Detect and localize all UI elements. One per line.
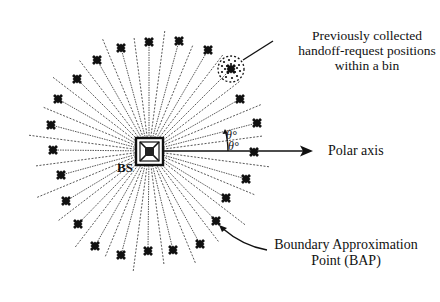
bap-marker-icon bbox=[46, 120, 55, 129]
bap-marker-icon bbox=[168, 245, 177, 254]
bap-marker-icon bbox=[116, 250, 125, 259]
bin-callout-line-2: handoff-request positions bbox=[292, 43, 440, 58]
bap-marker-icon bbox=[61, 196, 70, 205]
bap-callout: Boundary Approximation Point (BAP) bbox=[271, 237, 421, 269]
bap-radial-line bbox=[149, 123, 257, 151]
bap-marker-icon bbox=[56, 170, 65, 179]
bap-marker-icon bbox=[174, 36, 183, 45]
bin-callout-line-3: within a bin bbox=[292, 58, 440, 73]
bap-marker-icon bbox=[90, 241, 99, 250]
bap-marker-icon bbox=[48, 145, 57, 154]
bap-marker-icon bbox=[226, 64, 235, 73]
bap-radial-line bbox=[121, 48, 149, 151]
bap-marker-icon bbox=[143, 246, 152, 255]
base-station-icon bbox=[136, 138, 163, 165]
bap-marker-icon bbox=[221, 193, 230, 202]
bap-marker-icon bbox=[235, 94, 244, 103]
bap-marker-icon bbox=[241, 174, 250, 183]
bin-boundary-line bbox=[52, 77, 149, 151]
bap-marker-icon bbox=[73, 219, 82, 228]
bap-callout-line-1: Boundary Approximation bbox=[271, 237, 421, 253]
theta-lower-label: θ° bbox=[228, 139, 239, 154]
bap-radial-line bbox=[53, 150, 149, 151]
bap-callout-arrow bbox=[219, 225, 267, 250]
bap-radial-line bbox=[149, 41, 179, 151]
bap-marker-icon bbox=[72, 74, 81, 83]
bap-marker-icon bbox=[203, 45, 212, 54]
bap-marker-icon bbox=[252, 118, 261, 127]
bap-marker-icon bbox=[144, 37, 153, 46]
polar-axis-label: Polar axis bbox=[328, 143, 384, 158]
bap-marker-icon bbox=[195, 239, 204, 248]
bin-callout-line-1: Previously collected bbox=[292, 28, 440, 43]
bin-boundary-line bbox=[149, 54, 223, 151]
bap-marker-icon bbox=[211, 216, 220, 225]
bap-marker-icon bbox=[116, 43, 125, 52]
bap-marker-icon bbox=[92, 55, 101, 64]
base-station-label: BS bbox=[117, 160, 133, 175]
bap-radial-line bbox=[51, 125, 149, 151]
bap-marker-icon bbox=[53, 94, 62, 103]
bap-marker-icon bbox=[249, 147, 258, 156]
bin-points-callout: Previously collected handoff-request pos… bbox=[292, 28, 440, 73]
bap-callout-line-2: Point (BAP) bbox=[271, 253, 421, 269]
bin-callout-leader bbox=[243, 41, 273, 60]
